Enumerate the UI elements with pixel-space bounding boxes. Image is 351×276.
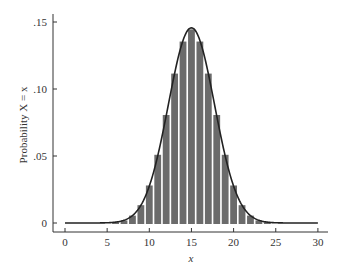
bar-x-14 [180,42,187,224]
y-tick-label: .10 [33,83,47,95]
y-tick-label: .05 [33,150,47,162]
bar-x-17 [205,74,212,224]
x-tick-label: 0 [62,236,68,248]
x-tick-label: 10 [144,236,156,248]
binomial-probability-chart: 0.05.10.15 051015202530 x Probability X … [0,0,351,276]
y-tick-label: .15 [33,16,47,28]
y-axis-label: Probability X = x [17,86,29,163]
bar-x-16 [196,42,203,224]
x-tick-label: 15 [186,236,198,248]
x-tick-label: 20 [228,236,240,248]
x-axis-ticks: 051015202530 [62,228,324,248]
bar-series [112,29,271,224]
x-tick-label: 25 [270,236,282,248]
bar-x-15 [188,29,195,224]
bar-x-13 [171,74,178,224]
x-tick-label: 5 [104,236,110,248]
x-axis-label: x [188,252,194,264]
x-tick-label: 30 [312,236,324,248]
y-tick-label: 0 [42,217,48,229]
